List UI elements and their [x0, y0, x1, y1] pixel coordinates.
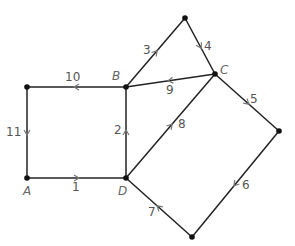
edge-11: 11 [6, 87, 30, 178]
edge-line [192, 131, 279, 237]
edge-label: 11 [6, 125, 21, 139]
edge-label: 7 [148, 205, 156, 219]
edge-label: 6 [242, 178, 250, 192]
directed-graph: 1234567891011ABCD [0, 0, 295, 246]
vertex [24, 84, 30, 90]
vertex-A [24, 175, 30, 181]
vertex-label: D [118, 184, 127, 198]
edge-label: 5 [250, 92, 258, 106]
edge-1: 1 [27, 175, 126, 194]
edge-2: 2 [114, 87, 129, 178]
vertex-label: C [220, 63, 229, 77]
edge-9: 9 [126, 74, 215, 97]
edge-label: 9 [166, 83, 174, 97]
vertex-C [212, 71, 218, 77]
edge-label: 3 [143, 43, 151, 57]
vertex-B [123, 84, 129, 90]
edge-4: 4 [185, 18, 215, 74]
edge-line [126, 178, 192, 237]
edge-label: 8 [178, 117, 186, 131]
vertex-label: B [112, 69, 120, 83]
edge-line [126, 18, 185, 87]
edge-line [215, 74, 279, 131]
edge-label: 1 [72, 180, 80, 194]
edge-label: 2 [114, 123, 122, 137]
edge-6: 6 [192, 131, 279, 237]
vertex [276, 128, 282, 134]
vertex-label: A [22, 184, 31, 198]
vertex [189, 234, 195, 240]
edge-7: 7 [126, 178, 192, 237]
vertex-D [123, 175, 129, 181]
edge-3: 3 [126, 18, 185, 87]
edge-label: 4 [204, 39, 212, 53]
edge-label: 10 [65, 70, 80, 84]
edge-5: 5 [215, 74, 279, 131]
vertex [182, 15, 188, 21]
